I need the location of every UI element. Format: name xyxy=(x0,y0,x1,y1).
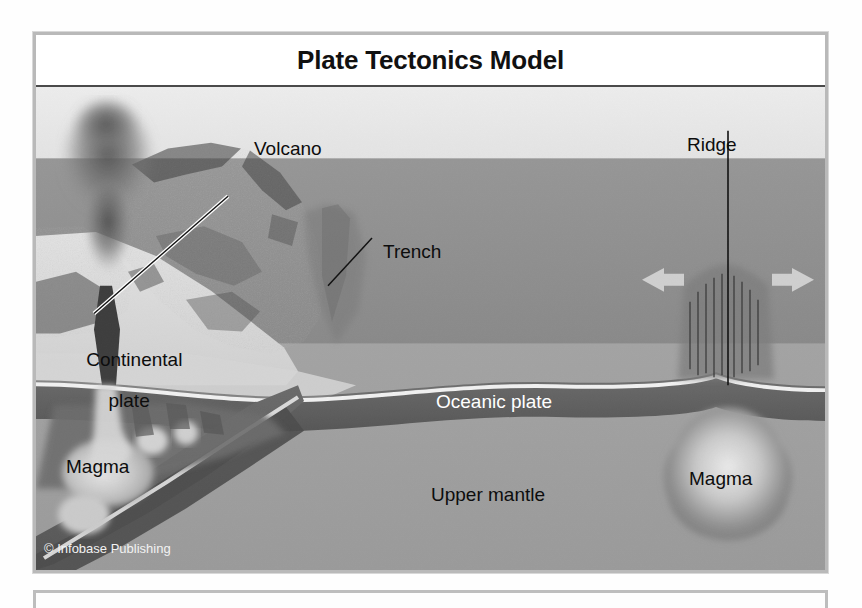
label-upper-mantle: Upper mantle xyxy=(431,485,545,506)
label-magma-right: Magma xyxy=(689,469,752,490)
label-continental-plate-line2: plate xyxy=(109,390,150,411)
figure-title-bar: Plate Tectonics Model xyxy=(36,35,825,87)
plate-tectonics-figure: Plate Tectonics Model xyxy=(33,32,828,573)
page-title: Plate Tectonics Model xyxy=(297,45,564,76)
label-continental-plate: Continental plate xyxy=(44,329,172,432)
label-ridge: Ridge xyxy=(687,135,737,156)
label-magma-left: Magma xyxy=(66,457,129,478)
figure-credit: © Infobase Publishing xyxy=(44,542,171,556)
illustration-canvas: Volcano Trench Ridge Continental plate M… xyxy=(36,87,825,570)
screenshot-root: Plate Tectonics Model xyxy=(0,0,862,608)
next-figure-frame-partial xyxy=(33,590,828,608)
label-continental-plate-line1: Continental xyxy=(86,349,182,370)
label-oceanic-plate: Oceanic plate xyxy=(436,392,552,413)
label-trench: Trench xyxy=(383,242,441,263)
label-volcano: Volcano xyxy=(254,139,322,160)
